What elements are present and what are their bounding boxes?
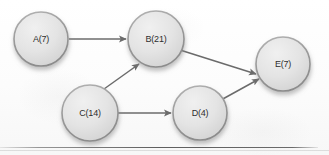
edge-d-to-e <box>221 79 259 100</box>
graph-node-e[interactable] <box>256 37 310 91</box>
edge-b-to-e <box>180 50 256 74</box>
graph-node-d[interactable] <box>173 86 227 140</box>
page-bottom-rule <box>0 147 318 148</box>
graph-node-a[interactable] <box>14 12 68 66</box>
scanned-diagram-page: A(7) B(21) C(14) D(4) E(7) <box>0 0 329 155</box>
graph-node-b[interactable] <box>128 11 184 67</box>
graph-canvas <box>0 0 329 155</box>
nodes-group <box>14 11 310 141</box>
graph-node-c[interactable] <box>62 85 118 141</box>
page-bottom-rule-secondary <box>0 150 329 151</box>
edge-c-to-b <box>104 64 139 89</box>
